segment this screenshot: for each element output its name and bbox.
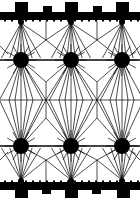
bottom-tall-block: [117, 189, 130, 198]
bar-tooth: [18, 20, 20, 22]
bar-tooth: [116, 181, 118, 183]
field-line: [108, 138, 115, 142]
bar-tooth: [88, 181, 90, 183]
bar-tooth: [95, 20, 97, 22]
bar-tooth: [130, 181, 132, 183]
field-line: [46, 23, 71, 40]
bar-tooth: [109, 20, 111, 22]
field-line: [75, 67, 79, 74]
field-line: [71, 160, 97, 180]
field-line: [21, 23, 46, 40]
bottom-short-block: [42, 189, 51, 194]
bar-tooth: [11, 20, 13, 22]
top-tall-block: [116, 2, 129, 13]
bar-tooth: [74, 181, 76, 183]
field-line: [28, 138, 35, 142]
bar-tooth: [67, 181, 69, 183]
bar-tooth: [109, 181, 111, 183]
diagram-canvas: [0, 0, 140, 208]
bar-tooth: [102, 181, 104, 183]
lower-charge-dot: [63, 138, 79, 154]
field-line: [71, 23, 97, 40]
field-line: [0, 152, 8, 160]
bar-tooth: [123, 20, 125, 22]
bar-tooth: [53, 181, 55, 183]
bar-tooth: [88, 20, 90, 22]
top-electrode-bar: [0, 12, 140, 20]
top-tall-block: [65, 2, 78, 13]
lower-charge-dot: [114, 138, 130, 154]
bar-tooth: [95, 181, 97, 183]
field-line: [126, 67, 130, 74]
top-node: [18, 19, 24, 25]
bottom-tall-block: [65, 189, 78, 198]
field-line: [13, 67, 17, 74]
field-lines: [0, 21, 140, 182]
bar-tooth: [32, 181, 34, 183]
bar-tooth: [116, 20, 118, 22]
bar-tooth: [137, 181, 139, 183]
bar-tooth: [137, 20, 139, 22]
bottom-tall-block: [15, 189, 28, 198]
bar-tooth: [39, 181, 41, 183]
field-line: [78, 64, 85, 68]
charge-dots: [13, 52, 130, 154]
bar-tooth: [74, 20, 76, 22]
field-line: [7, 64, 14, 68]
field-line: [97, 23, 122, 40]
upper-charge-dot: [114, 52, 130, 68]
bar-tooth: [39, 20, 41, 22]
bar-tooth: [102, 20, 104, 22]
bar-tooth: [81, 20, 83, 22]
bar-tooth: [81, 181, 83, 183]
bar-tooth: [123, 181, 125, 183]
field-line: [7, 138, 14, 142]
bar-tooth: [11, 181, 13, 183]
field-line: [129, 138, 136, 142]
bar-tooth: [60, 20, 62, 22]
bar-tooth: [32, 20, 34, 22]
bar-tooth: [46, 181, 48, 183]
top-tall-block: [15, 2, 28, 13]
lower-charge-dot: [13, 138, 29, 154]
bottom-short-block: [92, 189, 101, 194]
field-line: [129, 64, 136, 68]
bar-tooth: [25, 181, 27, 183]
bar-tooth: [18, 181, 20, 183]
upper-charge-dot: [13, 52, 29, 68]
bar-tooth: [67, 20, 69, 22]
bar-tooth: [130, 20, 132, 22]
bar-tooth: [4, 20, 6, 22]
figure-caption: ·· ··: [0, 199, 140, 206]
top-node: [68, 19, 74, 25]
top-short-block: [93, 6, 102, 13]
top-short-block: [43, 6, 52, 13]
field-line: [57, 138, 64, 142]
top-node: [119, 19, 125, 25]
bar-tooth: [25, 20, 27, 22]
bar-tooth: [53, 20, 55, 22]
bar-tooth: [4, 181, 6, 183]
bar-tooth: [60, 181, 62, 183]
field-diagram: ·· ··: [0, 0, 140, 208]
field-line: [78, 138, 85, 142]
upper-charge-dot: [63, 52, 79, 68]
bar-tooth: [46, 20, 48, 22]
